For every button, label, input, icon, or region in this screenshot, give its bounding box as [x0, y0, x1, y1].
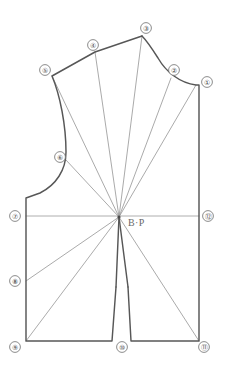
marker-8: ⑧: [10, 276, 21, 287]
marker-2: ②: [169, 65, 180, 76]
dart-ray-to-hem-left: [26, 217, 119, 341]
marker-1: ①: [202, 77, 213, 88]
marker-10: ⑩: [117, 342, 128, 353]
marker-1-label: ①: [204, 79, 210, 87]
dart-ray-to-armhole-right: [119, 85, 196, 217]
waist-dart-right-leg: [119, 217, 128, 287]
marker-6-label: ⑥: [57, 154, 63, 162]
pattern-diagram: B·P ① ② ③ ④ ⑤ ⑥ ⑦: [0, 0, 226, 367]
dart-ray-to-neckline-right: [119, 78, 171, 217]
dart-ray-group: [26, 36, 199, 341]
marker-9-label: ⑨: [12, 344, 18, 352]
bodice-outline-right: [128, 36, 199, 341]
marker-11: ⑪: [199, 342, 210, 353]
dart-ray-to-hem-right: [119, 217, 199, 341]
bust-point-dot: [117, 215, 120, 218]
bodice-outline: [26, 36, 142, 341]
waist-dart-left-leg: [116, 217, 119, 287]
marker-10-label: ⑩: [119, 344, 125, 352]
marker-7-label: ⑦: [12, 213, 18, 221]
marker-5: ⑤: [40, 65, 51, 76]
marker-12: ⑫: [203, 211, 214, 222]
marker-3-label: ③: [143, 25, 149, 33]
marker-12-label: ⑫: [205, 213, 212, 221]
marker-5-label: ⑤: [42, 67, 48, 75]
dart-ray-to-side-mid: [26, 217, 119, 281]
dart-ray-to-armhole-left: [66, 160, 119, 217]
marker-8-label: ⑧: [12, 278, 18, 286]
marker-4-label: ④: [90, 42, 96, 50]
marker-7: ⑦: [10, 211, 21, 222]
marker-3: ③: [141, 23, 152, 34]
marker-4: ④: [88, 40, 99, 51]
marker-6: ⑥: [55, 152, 66, 163]
dart-ray-to-shoulder-apex: [119, 36, 142, 217]
marker-9: ⑨: [10, 342, 21, 353]
bust-point-label: B·P: [128, 217, 145, 228]
pattern-canvas: B·P ① ② ③ ④ ⑤ ⑥ ⑦: [0, 0, 226, 367]
marker-11-label: ⑪: [201, 344, 208, 352]
marker-2-label: ②: [171, 67, 177, 75]
